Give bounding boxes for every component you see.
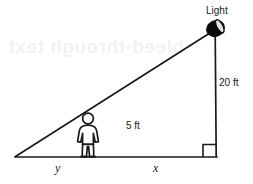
triangle-diagram-canvas [0, 0, 253, 184]
person-torso [78, 125, 99, 144]
person-figure [78, 113, 99, 157]
geometry-figure: bleed-through text Light 20 [0, 0, 253, 184]
right-angle-marker [203, 145, 216, 158]
light-fixture-icon [204, 17, 227, 39]
shadow-length-label: y [55, 162, 60, 174]
light-ray-line [16, 31, 214, 157]
distance-label: x [153, 162, 158, 174]
person-legs [82, 144, 94, 156]
light-label: Light [206, 6, 228, 16]
pole-height-label: 20 ft [219, 78, 238, 88]
pole-line [215, 33, 216, 157]
person-head [83, 113, 94, 124]
person-height-label: 5 ft [126, 121, 140, 131]
